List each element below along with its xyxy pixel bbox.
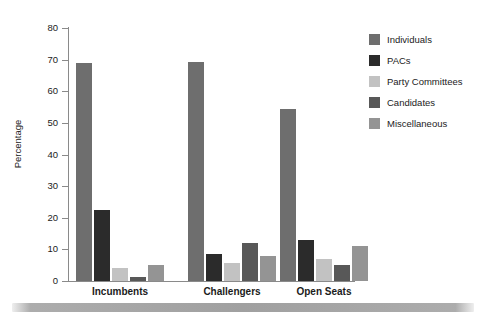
legend-swatch-icon <box>369 55 380 66</box>
y-axis-tick-label: 0 <box>24 276 58 286</box>
bar-party-committees-challengers <box>224 263 240 281</box>
y-axis-tick-label: 10 <box>24 244 58 254</box>
bar-candidates-incumbents <box>130 277 146 281</box>
bar-pacs-challengers <box>206 254 222 281</box>
bar-pacs-open-seats <box>298 240 314 281</box>
y-axis-tick-label: 50 <box>24 118 58 128</box>
y-axis-tick-labels: 80706050403020100 <box>22 0 58 319</box>
footer-decorative-band <box>12 303 474 312</box>
bar-chart-figure: 80706050403020100 Percentage Individuals… <box>0 0 492 319</box>
legend-label: Candidates <box>387 97 435 108</box>
x-axis-line <box>68 281 355 282</box>
x-axis-category-label: Challengers <box>182 286 282 298</box>
legend-item-candidates[interactable]: Candidates <box>369 93 489 111</box>
bar-pacs-incumbents <box>94 210 110 281</box>
x-axis-category-label: Open Seats <box>274 286 374 298</box>
y-axis-tick-mark <box>62 60 68 61</box>
legend-label: Party Committees <box>387 76 463 87</box>
x-axis-category-label: Incumbents <box>70 286 170 298</box>
bar-miscellaneous-challengers <box>260 256 276 281</box>
y-axis-tick-label: 40 <box>24 150 58 160</box>
bar-miscellaneous-open-seats <box>352 246 368 281</box>
y-axis-tick-mark <box>62 123 68 124</box>
bar-miscellaneous-incumbents <box>148 265 164 281</box>
chart-legend: IndividualsPACsParty CommitteesCandidate… <box>369 30 489 135</box>
bar-party-committees-open-seats <box>316 259 332 281</box>
legend-item-party-committees[interactable]: Party Committees <box>369 72 489 90</box>
bar-group-open-seats <box>280 28 368 281</box>
bar-individuals-open-seats <box>280 109 296 281</box>
legend-item-pacs[interactable]: PACs <box>369 51 489 69</box>
y-axis-tick-mark <box>62 186 68 187</box>
y-axis-tick-label: 20 <box>24 213 58 223</box>
legend-swatch-icon <box>369 97 380 108</box>
bar-party-committees-incumbents <box>112 268 128 281</box>
legend-item-individuals[interactable]: Individuals <box>369 30 489 48</box>
y-axis-tick-mark <box>62 249 68 250</box>
y-axis-tick-label: 80 <box>24 23 58 33</box>
legend-swatch-icon <box>369 118 380 129</box>
y-axis-tick-mark <box>62 281 68 282</box>
y-axis-title: Percentage <box>13 89 23 199</box>
y-axis-tick-label: 30 <box>24 181 58 191</box>
legend-swatch-icon <box>369 34 380 45</box>
legend-item-miscellaneous[interactable]: Miscellaneous <box>369 114 489 132</box>
legend-label: Individuals <box>387 34 432 45</box>
bar-candidates-open-seats <box>334 265 350 281</box>
bar-individuals-challengers <box>188 62 204 281</box>
legend-label: Miscellaneous <box>387 118 447 129</box>
legend-label: PACs <box>387 55 411 66</box>
bar-candidates-challengers <box>242 243 258 281</box>
legend-swatch-icon <box>369 76 380 87</box>
bar-group-incumbents <box>76 28 164 281</box>
y-axis-tick-mark <box>62 218 68 219</box>
y-axis-tick-mark <box>62 91 68 92</box>
y-axis-tick-mark <box>62 28 68 29</box>
bar-individuals-incumbents <box>76 63 92 281</box>
y-axis-tick-label: 70 <box>24 55 58 65</box>
y-axis-tick-mark <box>62 155 68 156</box>
bar-group-challengers <box>188 28 276 281</box>
plot-area <box>68 28 353 281</box>
y-axis-tick-label: 60 <box>24 86 58 96</box>
